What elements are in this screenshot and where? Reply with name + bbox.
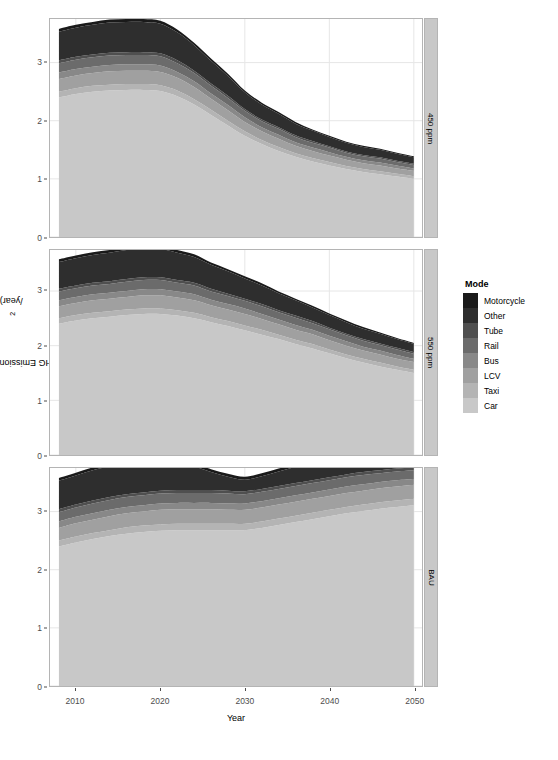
y-tick-mark — [44, 569, 47, 570]
legend-item-taxi[interactable]: Taxi — [463, 383, 555, 398]
legend-label-rail: Rail — [484, 341, 499, 351]
legend-label-car: Car — [484, 401, 498, 411]
legend-item-car[interactable]: Car — [463, 398, 555, 413]
y-tick-mark — [44, 345, 47, 346]
y-tick-mark — [44, 62, 47, 63]
y-tick-mark — [44, 511, 47, 512]
chart-root: GHG Emissions (Mt CO2/year) 0123 0123 01… — [0, 0, 558, 760]
plot-area-1 — [50, 250, 422, 455]
area-chart-svg-0 — [50, 19, 422, 237]
y-tick-mark — [44, 179, 47, 180]
x-axis-title: Year — [49, 713, 423, 723]
plot-panel-bau[interactable] — [49, 467, 423, 687]
legend-swatch-motorcycle — [463, 293, 478, 308]
area-chart-svg-2 — [50, 468, 422, 686]
legend-label-other: Other — [484, 311, 505, 321]
legend-swatch-other — [463, 308, 478, 323]
x-tick-label: 2020 — [150, 696, 169, 706]
area-chart-svg-1 — [50, 250, 422, 455]
legend-item-rail[interactable]: Rail — [463, 338, 555, 353]
y-tick-label: 1 — [8, 623, 48, 633]
legend-label-lcv: LCV — [484, 371, 501, 381]
y-tick-label: 2 — [8, 341, 48, 351]
x-tick-label: 2030 — [235, 696, 254, 706]
legend-label-tube: Tube — [484, 326, 503, 336]
y-tick-mark — [44, 628, 47, 629]
y-tick-mark — [44, 687, 47, 688]
legend-label-bus: Bus — [484, 356, 499, 366]
plot-area-0 — [50, 19, 422, 237]
legend-title: Mode — [465, 279, 555, 289]
y-tick-mark — [44, 120, 47, 121]
y-tick-label: 0 — [8, 682, 48, 692]
y-tick-label: 3 — [8, 285, 48, 295]
panel-strip-text-2: BAU — [427, 569, 436, 585]
y-tick-label: 3 — [8, 57, 48, 67]
legend-label-motorcycle: Motorcycle — [484, 296, 525, 306]
panel-strip-label-2: BAU — [424, 467, 438, 687]
legend-items: MotorcycleOtherTubeRailBusLCVTaxiCar — [463, 293, 555, 413]
legend-swatch-tube — [463, 323, 478, 338]
panel-strip-label-1: 550 ppm — [424, 249, 438, 456]
y-tick-label: 1 — [8, 174, 48, 184]
y-tick-label: 2 — [8, 116, 48, 126]
legend-item-lcv[interactable]: LCV — [463, 368, 555, 383]
y-tick-mark — [44, 400, 47, 401]
y-axis-panel-0: 0123 — [2, 18, 48, 238]
y-tick-mark — [44, 290, 47, 291]
legend-swatch-taxi — [463, 383, 478, 398]
x-tick-mark — [330, 688, 331, 691]
legend-item-bus[interactable]: Bus — [463, 353, 555, 368]
legend-item-tube[interactable]: Tube — [463, 323, 555, 338]
legend: Mode MotorcycleOtherTubeRailBusLCVTaxiCa… — [463, 279, 555, 413]
plot-panel-450ppm[interactable] — [49, 18, 423, 238]
legend-item-motorcycle[interactable]: Motorcycle — [463, 293, 555, 308]
legend-swatch-rail — [463, 338, 478, 353]
y-tick-label: 1 — [8, 396, 48, 406]
panel-strip-label-0: 450 ppm — [424, 18, 438, 238]
x-tick-mark — [160, 688, 161, 691]
plot-panel-550ppm[interactable] — [49, 249, 423, 456]
x-axis: 20102020203020402050 — [49, 688, 423, 710]
x-tick-mark — [75, 688, 76, 691]
legend-swatch-car — [463, 398, 478, 413]
y-tick-label: 3 — [8, 506, 48, 516]
legend-item-other[interactable]: Other — [463, 308, 555, 323]
x-tick-label: 2040 — [320, 696, 339, 706]
legend-swatch-lcv — [463, 368, 478, 383]
legend-label-taxi: Taxi — [484, 386, 499, 396]
y-axis-panel-2: 0123 — [2, 467, 48, 687]
x-tick-label: 2050 — [405, 696, 424, 706]
y-axis-panel-1: 0123 — [2, 249, 48, 456]
panel-strip-text-1: 550 ppm — [427, 337, 436, 368]
x-tick-mark — [415, 688, 416, 691]
y-tick-label: 2 — [8, 565, 48, 575]
y-tick-mark — [44, 456, 47, 457]
x-tick-mark — [245, 688, 246, 691]
y-tick-label: 0 — [8, 233, 48, 243]
plot-area-2 — [50, 468, 422, 686]
y-tick-mark — [44, 238, 47, 239]
x-tick-label: 2010 — [65, 696, 84, 706]
legend-swatch-bus — [463, 353, 478, 368]
y-tick-label: 0 — [8, 451, 48, 461]
panel-strip-text-0: 450 ppm — [427, 112, 436, 143]
